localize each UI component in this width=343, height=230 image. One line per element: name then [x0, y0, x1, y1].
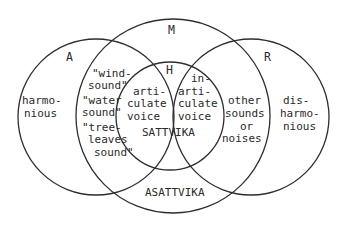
svg-text:culate: culate — [127, 97, 167, 110]
label-r: R — [264, 50, 271, 64]
svg-text:sound": sound" — [94, 146, 134, 159]
region-h-left: arti- culate voice — [127, 85, 167, 123]
svg-text:in-: in- — [191, 72, 211, 85]
region-r-only: dis- harmo- nious — [280, 94, 320, 133]
venn-diagram: M A R H harmo- nious dis- harmo- nious "… — [0, 0, 343, 230]
svg-text:sound": sound" — [88, 79, 128, 92]
svg-text:culate: culate — [178, 97, 218, 110]
region-a-only: harmo- nious — [22, 94, 62, 120]
svg-text:noises: noises — [222, 132, 262, 145]
svg-text:voice: voice — [178, 110, 211, 123]
svg-text:nious: nious — [283, 120, 316, 133]
svg-text:leaves: leaves — [88, 133, 128, 146]
svg-text:dis-: dis- — [283, 94, 310, 107]
svg-text:sounds: sounds — [225, 107, 265, 120]
region-h-right: in- arti- culate voice — [178, 72, 218, 123]
label-a: A — [66, 50, 73, 64]
svg-text:harmo-: harmo- — [22, 94, 62, 107]
label-asattvika: ASATTVIKA — [145, 186, 205, 199]
region-r-and-m: other sounds or noises — [222, 94, 265, 145]
svg-text:nious: nious — [24, 107, 57, 120]
svg-text:sound": sound" — [82, 106, 122, 119]
svg-text:harmo-: harmo- — [280, 107, 320, 120]
svg-text:other: other — [228, 94, 261, 107]
label-m: M — [168, 23, 175, 37]
svg-text:voice: voice — [127, 110, 160, 123]
label-sattvika: SATTVIKA — [142, 126, 195, 139]
label-h: H — [166, 63, 173, 77]
region-a-and-m: "wind- sound" "water sound" "tree- leave… — [82, 67, 134, 159]
